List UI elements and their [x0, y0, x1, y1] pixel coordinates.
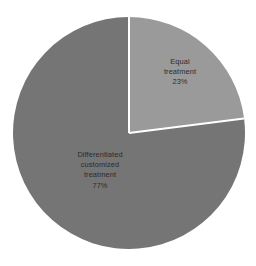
pie-chart-canvas: [0, 0, 256, 266]
pie-chart-figure: Equal treatment 23% Differentiated custo…: [0, 0, 256, 266]
pie-slice-equal-treatment[interactable]: [129, 17, 244, 133]
